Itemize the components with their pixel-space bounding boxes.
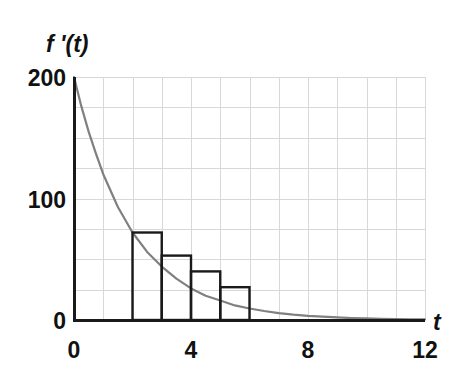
y-tick-label-100: 100 xyxy=(28,187,66,213)
x-tick-label-12: 12 xyxy=(412,337,438,363)
x-axis-title: t xyxy=(433,309,442,335)
y-tick-label-0: 0 xyxy=(53,308,66,334)
y-tick-label-200: 200 xyxy=(28,65,66,91)
x-tick-label-8: 8 xyxy=(302,337,315,363)
plot-background xyxy=(74,77,425,320)
chart-figure: f '(t) t 200 100 0 0 4 8 12 xyxy=(0,0,474,387)
y-axis-title: f '(t) xyxy=(46,31,89,57)
chart-canvas: f '(t) t 200 100 0 0 4 8 12 xyxy=(0,0,474,387)
x-tick-label-4: 4 xyxy=(185,337,198,363)
x-tick-label-0: 0 xyxy=(68,337,81,363)
